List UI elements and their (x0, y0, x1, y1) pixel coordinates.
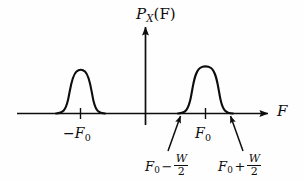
tick-label-symbol: F (195, 125, 205, 141)
y-axis-label-subscript: X (146, 13, 153, 24)
fraction-numerator: W (174, 153, 188, 166)
negative-frequency-lobe (56, 70, 105, 114)
x-axis-label: F (277, 104, 287, 119)
y-axis-label-symbol: P (136, 5, 146, 23)
annotation-operator: − (160, 159, 174, 174)
fraction-numerator: W (247, 153, 261, 166)
annotation-symbol: F (218, 159, 227, 174)
psd-figure: PX(F) F −F0 F0 F0−W2 F0+W2 (0, 0, 305, 180)
tick-label-subscript: 0 (84, 132, 90, 143)
annotation-subscript: 0 (227, 165, 233, 175)
fraction-denominator: 2 (247, 166, 261, 178)
y-axis-label: PX(F) (136, 7, 176, 24)
tick-label-positive-center-frequency: F0 (195, 126, 211, 142)
annotation-symbol: F (145, 159, 154, 174)
fraction-denominator: 2 (174, 166, 188, 178)
y-axis-label-argument: (F) (154, 5, 176, 23)
minus-sign: − (63, 125, 75, 141)
tick-label-negative-center-frequency: −F0 (63, 126, 91, 142)
upper-band-edge-pointer (231, 116, 244, 151)
tick-label-subscript: 0 (205, 132, 211, 143)
tick-label-symbol: F (75, 125, 85, 141)
annotation-lower-band-edge: F0−W2 (145, 153, 189, 178)
x-axis-label-symbol: F (277, 102, 287, 120)
annotation-fraction: W2 (174, 153, 188, 178)
annotation-subscript: 0 (154, 165, 160, 175)
annotation-fraction: W2 (247, 153, 261, 178)
annotation-operator: + (233, 159, 247, 174)
annotation-upper-band-edge: F0+W2 (218, 153, 262, 178)
lower-band-edge-pointer (168, 116, 181, 151)
positive-frequency-lobe (178, 66, 233, 113)
